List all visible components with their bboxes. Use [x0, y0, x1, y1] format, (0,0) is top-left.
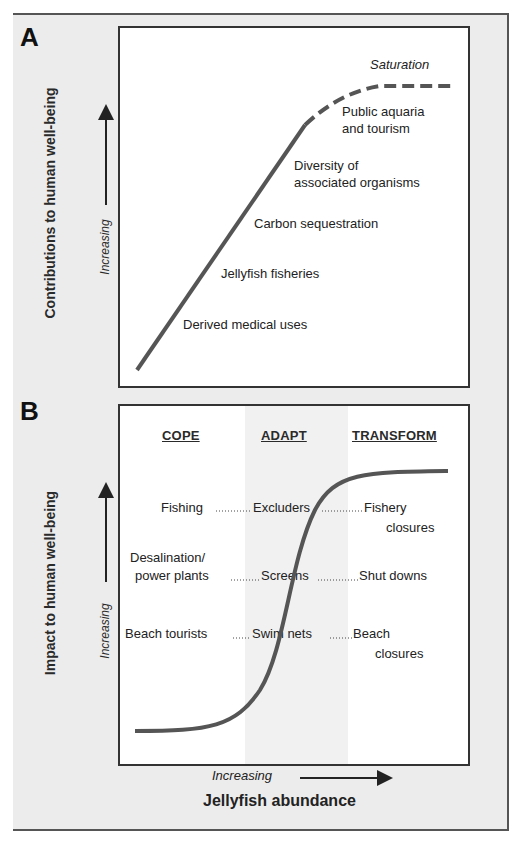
curves-overlay — [0, 0, 525, 842]
